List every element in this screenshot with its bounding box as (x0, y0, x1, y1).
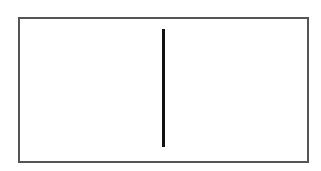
vertical-divider-line (162, 29, 165, 147)
diagram-canvas (0, 0, 321, 171)
